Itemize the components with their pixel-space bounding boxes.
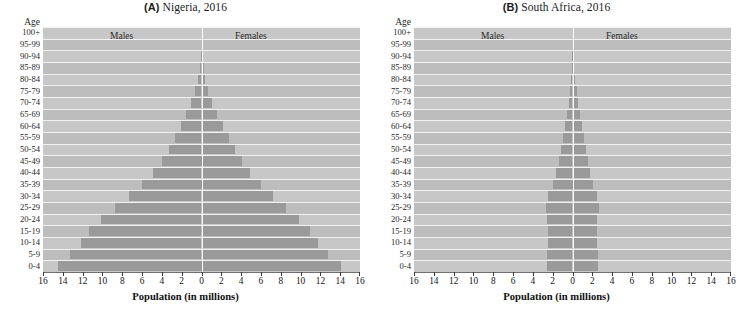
age-label-95-99: 95-99	[0, 40, 40, 49]
x-tick-label-12: 8	[270, 276, 292, 286]
bar-male-30-34	[129, 191, 201, 201]
age-label-60-64: 60-64	[0, 122, 40, 131]
bar-male-60-64	[565, 121, 572, 131]
x-tick-label-5: 6	[131, 276, 153, 286]
age-label-90-94: 90-94	[371, 52, 411, 61]
bar-male-55-59	[563, 133, 572, 143]
x-tick-label-10: 4	[230, 276, 252, 286]
age-label-30-34: 30-34	[0, 192, 40, 201]
bar-female-60-64	[573, 121, 583, 131]
x-tick-label-8: 0	[562, 276, 584, 286]
panel-south-africa: (B) South Africa, 2016 Age 100+95-9990-9…	[371, 0, 742, 316]
age-labels-a: 100+95-9990-9485-8980-8475-7970-7465-696…	[0, 27, 40, 272]
age-label-95-99: 95-99	[371, 40, 411, 49]
age-label-60-64: 60-64	[371, 122, 411, 131]
bar-male-0-4	[58, 261, 202, 271]
bar-female-25-29	[202, 203, 286, 213]
bar-female-10-14	[573, 238, 597, 248]
bar-female-40-44	[202, 168, 251, 178]
x-axis-title-b: Population (in millions)	[371, 291, 742, 302]
bar-female-20-24	[202, 215, 299, 225]
bar-female-15-19	[202, 226, 311, 236]
age-axis-title-b: Age	[371, 17, 411, 27]
x-tick-label-6: 4	[522, 276, 544, 286]
x-tick-label-4: 8	[111, 276, 133, 286]
x-tick-label-11: 6	[621, 276, 643, 286]
x-tick-label-1: 14	[423, 276, 445, 286]
x-tick-label-1: 14	[52, 276, 74, 286]
bar-female-45-49	[202, 156, 242, 166]
x-tick-label-10: 4	[601, 276, 623, 286]
age-label-45-49: 45-49	[0, 157, 40, 166]
bar-male-20-24	[101, 215, 201, 225]
bar-male-10-14	[548, 238, 572, 248]
age-label-100+: 100+	[371, 28, 411, 37]
bar-male-5-9	[70, 250, 202, 260]
bar-female-20-24	[573, 215, 598, 225]
x-tick-label-9: 2	[581, 276, 603, 286]
age-label-20-24: 20-24	[371, 215, 411, 224]
age-label-40-44: 40-44	[371, 168, 411, 177]
bar-male-45-49	[162, 156, 202, 166]
bar-female-50-54	[202, 145, 235, 155]
x-tick-label-7: 2	[542, 276, 564, 286]
bar-male-45-49	[559, 156, 573, 166]
bar-female-60-64	[202, 121, 223, 131]
age-label-55-59: 55-59	[371, 133, 411, 142]
x-tick-label-2: 12	[72, 276, 94, 286]
x-tick-label-2: 12	[443, 276, 465, 286]
x-tick-label-11: 6	[250, 276, 272, 286]
x-tick-label-0: 16	[32, 276, 54, 286]
plot-area-a	[43, 27, 360, 272]
bar-female-65-69	[573, 110, 580, 120]
bar-male-60-64	[181, 121, 202, 131]
bar-female-55-59	[202, 133, 229, 143]
bar-female-75-79	[202, 86, 209, 96]
age-label-85-89: 85-89	[0, 63, 40, 72]
bar-male-55-59	[175, 133, 202, 143]
bar-female-40-44	[573, 168, 591, 178]
bar-female-55-59	[573, 133, 584, 143]
bar-male-50-54	[169, 145, 202, 155]
age-label-10-14: 10-14	[0, 238, 40, 247]
bar-female-0-4	[573, 261, 599, 271]
x-tick-label-14: 12	[309, 276, 331, 286]
panel-b-title-text: South Africa, 2016	[518, 1, 610, 13]
age-label-25-29: 25-29	[371, 203, 411, 212]
bar-male-15-19	[89, 226, 202, 236]
age-label-35-39: 35-39	[371, 180, 411, 189]
x-tick-label-9: 2	[210, 276, 232, 286]
bar-female-50-54	[573, 145, 586, 155]
age-label-85-89: 85-89	[371, 63, 411, 72]
age-label-5-9: 5-9	[0, 250, 40, 259]
x-tick-label-6: 4	[151, 276, 173, 286]
panel-b-title: (B) South Africa, 2016	[371, 1, 742, 13]
females-label-b: Females	[606, 31, 638, 41]
x-axis-title-a: Population (in millions)	[0, 291, 371, 302]
bar-female-15-19	[573, 226, 597, 236]
bar-male-40-44	[556, 168, 572, 178]
bar-male-20-24	[547, 215, 572, 225]
age-label-0-4: 0-4	[371, 262, 411, 271]
age-label-80-84: 80-84	[371, 75, 411, 84]
age-label-75-79: 75-79	[0, 87, 40, 96]
x-tick-label-8: 0	[191, 276, 213, 286]
age-label-15-19: 15-19	[371, 227, 411, 236]
bar-female-25-29	[573, 203, 599, 213]
bar-male-70-74	[191, 98, 201, 108]
age-axis-title-a: Age	[0, 17, 40, 27]
x-tick-label-13: 10	[290, 276, 312, 286]
bar-male-25-29	[115, 203, 201, 213]
x-tick-label-4: 8	[482, 276, 504, 286]
age-label-50-54: 50-54	[0, 145, 40, 154]
figure-population-pyramids: (A) Nigeria, 2016 Age 100+95-9990-9485-8…	[0, 0, 742, 316]
females-label-a: Females	[235, 31, 267, 41]
age-label-40-44: 40-44	[0, 168, 40, 177]
x-tick-label-14: 12	[680, 276, 702, 286]
bar-male-35-39	[142, 180, 201, 190]
bar-female-45-49	[573, 156, 588, 166]
age-label-15-19: 15-19	[0, 227, 40, 236]
bar-female-10-14	[202, 238, 319, 248]
panel-a-title: (A) Nigeria, 2016	[0, 1, 371, 13]
age-label-10-14: 10-14	[371, 238, 411, 247]
